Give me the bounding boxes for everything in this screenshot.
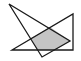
overlapping-triangles-diagram: [0, 0, 81, 61]
shaded-overlap-region: [31, 27, 70, 50]
